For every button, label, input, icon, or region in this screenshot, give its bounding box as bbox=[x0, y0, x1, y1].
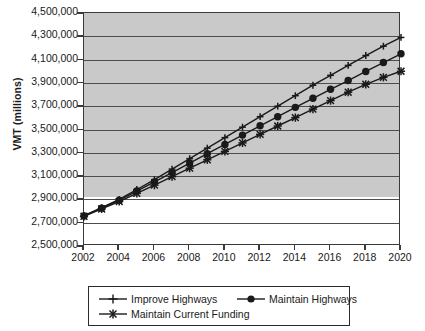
data-point-star bbox=[326, 97, 334, 105]
legend-item-maintain-highways: Maintain Highways bbox=[237, 293, 357, 305]
legend-label-improve-highways: Improve Highways bbox=[131, 293, 217, 305]
data-point-circle bbox=[256, 122, 263, 129]
x-axis-tick-mark bbox=[82, 245, 84, 250]
x-axis-tick-mark bbox=[188, 245, 190, 250]
data-point-star bbox=[291, 114, 299, 122]
data-point-plus bbox=[310, 82, 317, 89]
data-point-circle bbox=[239, 131, 246, 138]
data-point-star bbox=[150, 181, 158, 189]
data-point-star bbox=[115, 197, 123, 205]
x-axis-tick-label: 2004 bbox=[98, 251, 138, 263]
legend-label-maintain-highways: Maintain Highways bbox=[269, 293, 357, 305]
data-point-plus bbox=[221, 134, 228, 141]
x-axis-tick-mark bbox=[258, 245, 260, 250]
data-point-star bbox=[256, 130, 264, 138]
legend-marker-plus-icon bbox=[99, 293, 127, 305]
data-point-plus bbox=[362, 52, 369, 59]
data-point-star bbox=[203, 156, 211, 164]
y-axis-tick-label: 3,900,000 bbox=[4, 75, 78, 87]
data-point-star bbox=[344, 88, 352, 96]
data-point-circle bbox=[309, 95, 316, 102]
data-point-star bbox=[98, 205, 106, 213]
x-axis-tick-mark bbox=[153, 245, 155, 250]
x-axis-tick-label: 2016 bbox=[310, 251, 350, 263]
y-axis-title: VMT (millions) bbox=[11, 49, 23, 179]
x-axis-tick-label: 2014 bbox=[274, 251, 314, 263]
x-axis-tick-label: 2020 bbox=[380, 251, 420, 263]
data-point-plus bbox=[327, 72, 334, 79]
data-point-circle bbox=[362, 68, 369, 75]
data-point-star bbox=[133, 189, 141, 197]
x-axis-tick-mark bbox=[364, 245, 366, 250]
data-point-circle bbox=[344, 77, 351, 84]
data-point-star bbox=[168, 173, 176, 181]
data-point-star bbox=[397, 67, 405, 75]
y-axis-tick-label: 4,300,000 bbox=[4, 28, 78, 40]
y-axis-tick-label: 4,500,000 bbox=[4, 5, 78, 17]
legend-label-maintain-current-funding: Maintain Current Funding bbox=[131, 308, 249, 320]
y-axis-tick-label: 3,100,000 bbox=[4, 168, 78, 180]
x-axis-tick-label: 2012 bbox=[239, 251, 279, 263]
data-point-plus bbox=[292, 92, 299, 99]
y-axis-tick-label: 4,100,000 bbox=[4, 52, 78, 64]
y-axis-tick-label: 2,500,000 bbox=[4, 238, 78, 250]
plot-area bbox=[83, 12, 400, 245]
x-axis-tick-mark bbox=[399, 245, 401, 250]
x-axis-tick-mark bbox=[294, 245, 296, 250]
x-axis-tick-label: 2006 bbox=[133, 251, 173, 263]
data-point-circle bbox=[397, 50, 404, 57]
legend-item-maintain-current-funding: Maintain Current Funding bbox=[99, 308, 249, 320]
x-axis-tick-mark bbox=[223, 245, 225, 250]
data-point-plus bbox=[345, 62, 352, 69]
data-point-plus bbox=[380, 43, 387, 50]
data-point-star bbox=[80, 212, 88, 220]
y-axis-tick-label: 3,300,000 bbox=[4, 145, 78, 157]
data-point-star bbox=[379, 73, 387, 81]
data-point-star bbox=[221, 147, 229, 155]
data-point-plus bbox=[239, 124, 246, 131]
series-layer bbox=[84, 13, 401, 246]
y-axis-tick-label: 2,700,000 bbox=[4, 215, 78, 227]
data-point-plus bbox=[274, 103, 281, 110]
legend-marker-star-icon bbox=[99, 308, 127, 320]
data-point-plus bbox=[398, 34, 405, 41]
legend-item-improve-highways: Improve Highways bbox=[99, 293, 217, 305]
data-point-star bbox=[238, 139, 246, 147]
data-point-circle bbox=[327, 86, 334, 93]
x-axis-tick-mark bbox=[117, 245, 119, 250]
data-point-star bbox=[309, 105, 317, 113]
y-axis-tick-label: 2,900,000 bbox=[4, 191, 78, 203]
data-point-star bbox=[186, 164, 194, 172]
data-point-circle bbox=[274, 113, 281, 120]
x-axis-tick-label: 2010 bbox=[204, 251, 244, 263]
data-point-star bbox=[362, 80, 370, 88]
data-point-plus bbox=[257, 113, 264, 120]
x-axis-tick-mark bbox=[329, 245, 331, 250]
x-axis-tick-label: 2008 bbox=[169, 251, 209, 263]
x-axis-tick-label: 2018 bbox=[345, 251, 385, 263]
data-point-circle bbox=[292, 104, 299, 111]
legend: Improve Highways Maintain Highways Maint… bbox=[88, 286, 350, 326]
y-axis-tick-label: 3,500,000 bbox=[4, 122, 78, 134]
data-point-circle bbox=[221, 141, 228, 148]
y-axis-tick-label: 3,700,000 bbox=[4, 98, 78, 110]
x-axis-tick-label: 2002 bbox=[63, 251, 103, 263]
chart-figure: VMT (millions) 4,500,0004,300,0004,100,0… bbox=[0, 0, 425, 331]
data-point-star bbox=[274, 122, 282, 130]
legend-marker-circle-icon bbox=[237, 293, 265, 305]
data-point-circle bbox=[380, 59, 387, 66]
